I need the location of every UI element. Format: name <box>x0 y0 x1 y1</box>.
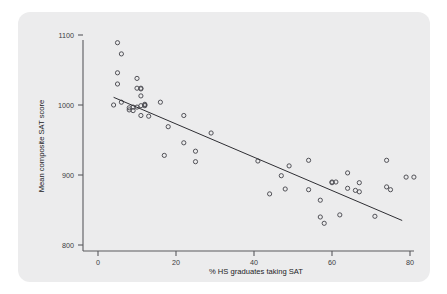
data-point <box>318 215 322 219</box>
data-point <box>388 188 392 192</box>
x-axis-title: % HS graduates taking SAT <box>209 267 303 276</box>
data-point <box>404 175 408 179</box>
data-point <box>357 181 361 185</box>
data-point <box>307 188 311 192</box>
data-point <box>283 187 287 191</box>
data-point <box>162 153 166 157</box>
data-point <box>346 186 350 190</box>
data-point <box>385 185 389 189</box>
y-tick-label: 900 <box>62 171 74 180</box>
data-point <box>182 113 186 117</box>
data-point <box>338 213 342 217</box>
data-point <box>193 160 197 164</box>
data-point <box>193 149 197 153</box>
x-tick-label: 80 <box>406 258 414 267</box>
data-point <box>166 125 170 129</box>
data-point <box>139 94 143 98</box>
data-point <box>279 174 283 178</box>
y-tick-label: 1100 <box>59 31 74 40</box>
y-axis-title: Mean composite SAT score <box>37 100 46 193</box>
y-tick-label: 800 <box>62 241 74 250</box>
data-point <box>115 41 119 45</box>
data-point <box>373 214 377 218</box>
x-tick-group: 020406080 <box>96 251 414 267</box>
scatter-plot: 80090010001100 020406080 % HS graduates … <box>0 0 447 294</box>
x-tick-label: 60 <box>328 258 336 267</box>
data-point <box>209 131 213 135</box>
data-point <box>357 190 361 194</box>
data-point <box>147 114 151 118</box>
data-point <box>112 103 116 107</box>
data-point <box>307 158 311 162</box>
y-tick-group: 80090010001100 <box>58 31 83 250</box>
data-point <box>322 221 326 225</box>
data-point <box>158 100 162 104</box>
data-point <box>268 192 272 196</box>
y-tick-label: 1000 <box>58 101 74 110</box>
data-point <box>287 164 291 168</box>
data-point <box>412 175 416 179</box>
data-points <box>112 41 417 226</box>
data-point <box>115 71 119 75</box>
regression-line <box>114 97 403 220</box>
y-axis: 80090010001100 <box>58 31 83 251</box>
x-axis: 020406080 <box>83 251 414 267</box>
data-point <box>139 113 143 117</box>
data-point <box>135 76 139 80</box>
data-point <box>182 141 186 145</box>
data-point <box>115 82 119 86</box>
x-tick-label: 20 <box>172 258 180 267</box>
data-point <box>346 171 350 175</box>
data-point <box>119 52 123 56</box>
data-point <box>385 158 389 162</box>
x-tick-label: 40 <box>250 258 258 267</box>
data-point <box>318 198 322 202</box>
x-tick-label: 0 <box>96 258 100 267</box>
